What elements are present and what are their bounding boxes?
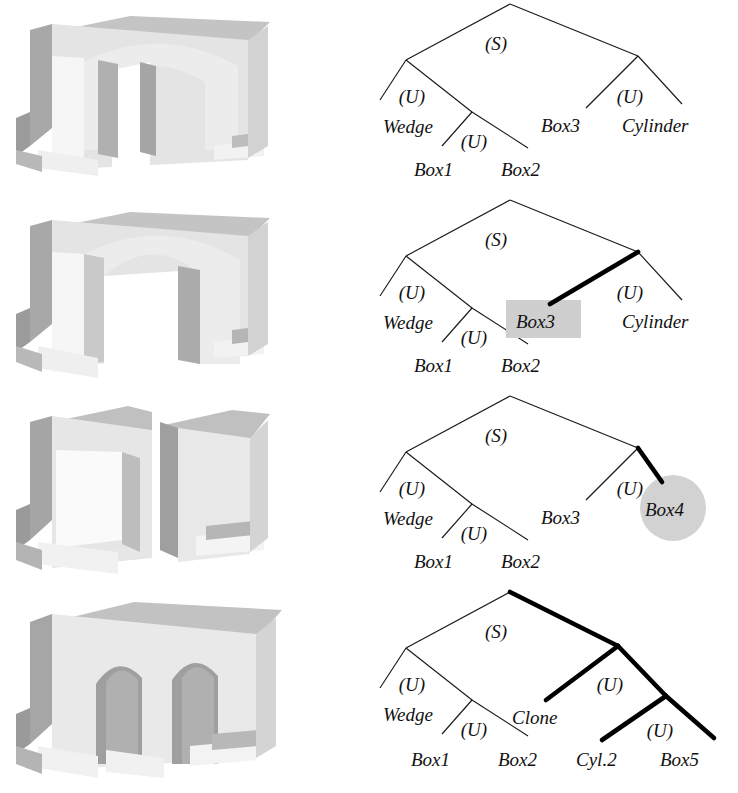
edge-root-right — [510, 396, 638, 448]
edge-root-right — [510, 4, 638, 56]
arch-left-foot-dark — [16, 112, 30, 156]
node-left-union-operator: (U) — [399, 86, 425, 108]
node-right-union-operator: (U) — [617, 86, 643, 108]
render-arch-4 — [0, 588, 400, 786]
node-left-inner-union-operator: (U) — [461, 719, 487, 741]
arch-left-foot-dark — [16, 308, 30, 352]
csg-tree-svg-2: (S) (U) (U) (U) Wedge Box1 Box2 Box3 Cyl… — [370, 196, 738, 394]
figure-row-3: (S) (U) (U) (U) Wedge Box1 Box2 Box3 Box… — [0, 392, 738, 590]
leaf-box3-selected[interactable]: Box3 — [516, 311, 555, 332]
arch-left-dark-side — [30, 220, 52, 342]
arch-right-jamb-dark — [178, 266, 200, 364]
node-root-operator: (S) — [485, 425, 507, 447]
node-right-union-operator: (U) — [617, 282, 643, 304]
csg-tree-svg-1: (S) (U) (U) (U) Wedge Box1 Box2 Box3 Cyl… — [370, 0, 738, 198]
leaf-box2: Box2 — [498, 749, 538, 770]
edge-rightu-cylinder — [638, 252, 682, 300]
viaduct-right-side — [256, 618, 276, 758]
bold-edge-root-rightu — [510, 592, 618, 646]
leaf-clone[interactable]: Clone — [512, 707, 557, 728]
arch-render-svg-4 — [0, 588, 400, 793]
node-root-operator: (S) — [485, 33, 507, 55]
viaduct-arch-inner-1 — [106, 670, 138, 764]
leaf-box3: Box3 — [541, 507, 580, 528]
figure-row-1: (S) (U) (U) (U) Wedge Box1 Box2 Box3 Cyl… — [0, 0, 738, 198]
arch-mid-jamb-dark-2 — [140, 62, 156, 156]
node-left-union-operator: (U) — [399, 282, 425, 304]
arch-mid-jamb-dark — [98, 60, 118, 158]
leaf-box2: Box2 — [501, 355, 541, 376]
leaf-cyl2[interactable]: Cyl.2 — [576, 749, 617, 770]
node-root-operator: (S) — [485, 621, 507, 643]
render-arch-3 — [0, 392, 400, 590]
csg-tree-3: (S) (U) (U) (U) Wedge Box1 Box2 Box3 Box… — [370, 392, 738, 590]
left-block-dark-side — [30, 416, 52, 540]
node-root-operator: (S) — [485, 229, 507, 251]
leaf-box1: Box1 — [411, 749, 450, 770]
leaf-cylinder: Cylinder — [622, 311, 689, 332]
csg-tree-svg-4: (S) (U) (U) (U) (U) Wedge Box1 Box2 Clon… — [370, 588, 738, 793]
figure-row-4: (S) (U) (U) (U) (U) Wedge Box1 Box2 Clon… — [0, 588, 738, 793]
render-arch-2 — [0, 196, 400, 394]
node-left-union-operator: (U) — [399, 674, 425, 696]
arch-right-side — [248, 222, 268, 356]
leaf-wedge: Wedge — [383, 312, 433, 333]
csg-tree-2: (S) (U) (U) (U) Wedge Box1 Box2 Box3 Cyl… — [370, 196, 738, 394]
leaf-box1: Box1 — [414, 551, 453, 572]
viaduct-left-dark-side — [30, 614, 52, 744]
arch-left-jamb — [52, 56, 84, 168]
bold-edge-rightu-inneru — [618, 646, 666, 696]
render-arch-1 — [0, 0, 400, 198]
node-left-inner-union-operator: (U) — [461, 131, 487, 153]
node-right-inner-union-operator: (U) — [647, 720, 673, 742]
right-block-dark-side — [160, 422, 178, 558]
arch-right-side — [248, 26, 268, 158]
edge-root-right — [510, 200, 638, 252]
node-right-union-operator: (U) — [617, 478, 643, 500]
leaf-wedge: Wedge — [383, 508, 433, 529]
node-left-inner-union-operator: (U) — [461, 523, 487, 545]
arch-left-jamb-dark — [84, 254, 104, 364]
leaf-box3: Box3 — [541, 115, 580, 136]
right-block-side — [250, 420, 268, 552]
arch-left-dark-side — [30, 24, 52, 146]
left-block-inner-face — [56, 450, 122, 548]
arch-render-svg-2 — [0, 196, 400, 394]
arch-render-svg-3 — [0, 392, 400, 590]
leaf-box2: Box2 — [501, 551, 541, 572]
csg-tree-1: (S) (U) (U) (U) Wedge Box1 Box2 Box3 Cyl… — [370, 0, 738, 198]
bold-edge-rightu-box4 — [638, 448, 662, 482]
node-right-union-operator: (U) — [597, 674, 623, 696]
leaf-box4-selected[interactable]: Box4 — [645, 499, 685, 520]
edge-rightu-cylinder — [638, 56, 682, 104]
csg-tree-svg-3: (S) (U) (U) (U) Wedge Box1 Box2 Box3 Box… — [370, 392, 738, 590]
leaf-wedge: Wedge — [383, 704, 433, 725]
leaf-box1: Box1 — [414, 355, 453, 376]
node-left-union-operator: (U) — [399, 478, 425, 500]
csg-tree-4: (S) (U) (U) (U) (U) Wedge Box1 Box2 Clon… — [370, 588, 738, 786]
node-left-inner-union-operator: (U) — [461, 327, 487, 349]
leaf-box2: Box2 — [501, 159, 541, 180]
leaf-box1: Box1 — [414, 159, 453, 180]
leaf-wedge: Wedge — [383, 116, 433, 137]
leaf-cylinder: Cylinder — [622, 115, 689, 136]
figure-row-2: (S) (U) (U) (U) Wedge Box1 Box2 Box3 Cyl… — [0, 196, 738, 394]
arch-render-svg-1 — [0, 0, 400, 198]
left-block-inner-dark — [122, 452, 140, 552]
leaf-box5[interactable]: Box5 — [660, 749, 699, 770]
